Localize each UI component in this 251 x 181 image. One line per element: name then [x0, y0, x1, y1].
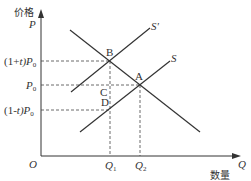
- supply-demand-diagram: 价格 P O 数量 Q (1+t)P0 P0 (1-t)P0 Q1 Q2 S' …: [0, 0, 251, 181]
- supply-label: S: [171, 52, 177, 64]
- supply-shifted-curve: [71, 28, 150, 92]
- y-axis-label: P: [28, 18, 36, 30]
- y-axis-arrow-icon: [38, 9, 44, 18]
- x-axis-label-cn: 数量: [210, 169, 230, 181]
- guide-lines: [41, 61, 140, 156]
- supply-curve: [80, 61, 170, 132]
- y-axis-label-cn: 价格: [14, 6, 34, 18]
- point-a-label: A: [135, 70, 143, 82]
- price-high-label: (1+t)P0: [4, 55, 37, 69]
- price-low-label: (1-t)P0: [4, 104, 34, 118]
- origin-label: O: [29, 158, 37, 170]
- y-axis: [38, 9, 44, 156]
- price-base-label: P0: [25, 79, 37, 93]
- x-axis-label: Q: [238, 158, 246, 170]
- quantity-q2-label: Q2: [135, 159, 147, 173]
- point-b-label: B: [106, 46, 113, 58]
- quantity-q1-label: Q1: [105, 159, 117, 173]
- point-d-label: D: [101, 96, 109, 108]
- supply-shifted-label: S': [151, 20, 160, 32]
